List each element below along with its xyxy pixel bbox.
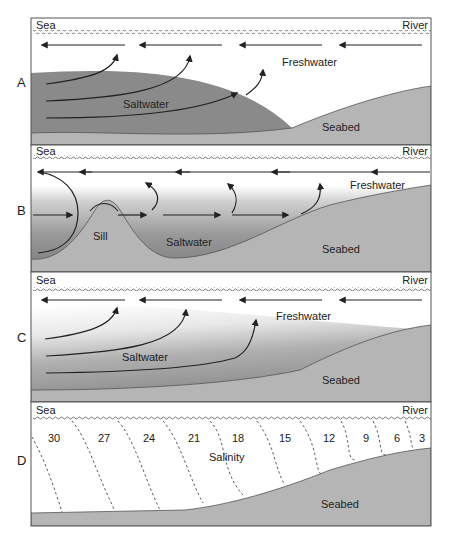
salinity-30: 30 (48, 432, 60, 444)
freshwater-label-c: Freshwater (276, 310, 331, 322)
panel-letter-d: D (17, 453, 26, 468)
panel-letter-a: A (17, 75, 26, 90)
estuary-diagram: Sea River Freshwater Saltwater Seabed A … (0, 0, 450, 541)
salinity-3: 3 (419, 432, 425, 444)
sea-label-a: Sea (36, 19, 56, 31)
sea-label-c: Sea (36, 274, 56, 286)
saltwater-label-c: Saltwater (122, 351, 168, 363)
salinity-15: 15 (279, 432, 291, 444)
salinity-values: 30 27 24 21 18 15 12 9 6 3 (48, 432, 425, 444)
river-label-d: River (402, 404, 428, 416)
salinity-12: 12 (323, 432, 335, 444)
water-surface-wave (33, 30, 431, 34)
freshwater-label-a: Freshwater (282, 56, 337, 68)
sill-label: Sill (93, 230, 108, 242)
seabed-label-d: Seabed (321, 498, 359, 510)
freshwater-label-b: Freshwater (350, 179, 405, 191)
salinity-21: 21 (188, 432, 200, 444)
panel-letter-b: B (17, 203, 26, 218)
salinity-24: 24 (143, 432, 155, 444)
salinity-9: 9 (363, 432, 369, 444)
sea-label-b: Sea (36, 145, 56, 157)
seabed-label-b: Seabed (322, 243, 360, 255)
salinity-18: 18 (232, 432, 244, 444)
saltwater-label-a: Saltwater (123, 98, 169, 110)
sea-label-d: Sea (36, 404, 56, 416)
salinity-6: 6 (394, 432, 400, 444)
panel-a (31, 18, 431, 145)
saltwater-label-b: Saltwater (166, 236, 212, 248)
seabed-label-a: Seabed (322, 121, 360, 133)
panel-c (31, 272, 431, 402)
salinity-27: 27 (98, 432, 110, 444)
panel-b (31, 145, 431, 272)
seabed-label-c: Seabed (322, 374, 360, 386)
river-label-b: River (402, 145, 428, 157)
river-label-a: River (402, 19, 428, 31)
panel-letter-c: C (17, 330, 26, 345)
river-label-c: River (402, 274, 428, 286)
panel-d (31, 402, 431, 526)
salinity-label: Salinity (209, 451, 245, 463)
